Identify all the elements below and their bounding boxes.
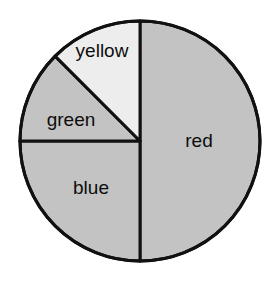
pie-label-blue: blue	[73, 177, 109, 198]
pie-slice-blue	[20, 141, 140, 261]
pie-label-yellow: yellow	[76, 40, 129, 61]
pie-chart: yellow green blue red	[0, 0, 275, 282]
pie-label-green: green	[47, 109, 96, 130]
pie-chart-canvas: yellow green blue red	[0, 0, 275, 282]
pie-label-red: red	[185, 130, 212, 151]
